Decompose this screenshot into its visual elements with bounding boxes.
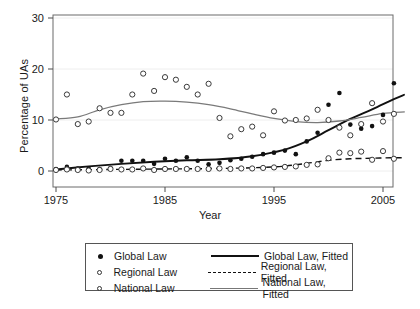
y-axis-label: Percentage of UAs [18, 36, 30, 176]
x-axis-label: Year [0, 209, 420, 221]
svg-text:20: 20 [32, 63, 44, 75]
svg-text:2005: 2005 [371, 194, 395, 206]
svg-text:10: 10 [32, 114, 44, 126]
plot-area-wrapper: 01020301975198519952005 [0, 0, 420, 240]
legend-label-regional-law: Regional Law [113, 266, 203, 278]
legend-line-global-law-fitted-icon [206, 255, 264, 257]
chart-legend: Global Law Global Law, Fitted Regional L… [85, 243, 353, 291]
svg-text:30: 30 [32, 12, 44, 24]
legend-label-national-law-fitted: National Law, Fitted [263, 276, 354, 300]
scatter-plot: 01020301975198519952005 [0, 0, 420, 240]
chart-figure: 01020301975198519952005 Percentage of UA… [0, 0, 420, 309]
legend-marker-regional-law-icon [86, 270, 113, 275]
svg-text:0: 0 [38, 165, 44, 177]
legend-line-regional-law-fitted-icon [204, 272, 261, 273]
legend-marker-global-law-icon [86, 254, 114, 259]
svg-text:1995: 1995 [262, 194, 286, 206]
legend-label-national-law: National Law [114, 282, 205, 294]
svg-text:1985: 1985 [153, 194, 177, 206]
legend-row: National Law National Law, Fitted [86, 280, 354, 296]
legend-marker-national-law-icon [86, 286, 114, 291]
legend-label-global-law: Global Law [114, 250, 206, 262]
legend-line-national-law-fitted-icon [205, 288, 263, 289]
svg-text:1975: 1975 [44, 194, 68, 206]
